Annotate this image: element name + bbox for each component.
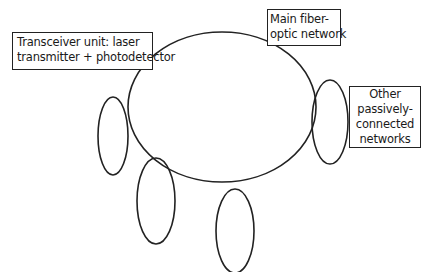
transceiver-label: Transceiver unit: laser transmitter + ph… — [12, 32, 153, 70]
other-networks-label-line-4: networks — [352, 132, 418, 147]
main-network-label: Main fiber- optic network — [267, 9, 341, 46]
satellite-ring-bottom-left — [137, 158, 175, 244]
other-networks-label-line-3: connected — [352, 117, 418, 132]
transceiver-label-line-2: transmitter + photodetector — [17, 50, 148, 65]
other-networks-label-line-1: Other — [352, 87, 418, 102]
main-network-label-line-2: optic network — [270, 27, 338, 42]
main-network-label-line-1: Main fiber- — [270, 12, 338, 27]
satellite-ring-right — [312, 80, 348, 164]
other-networks-label-line-2: passively- — [352, 102, 418, 117]
transceiver-label-line-1: Transceiver unit: laser — [17, 35, 148, 50]
other-networks-label: Other passively- connected networks — [349, 86, 421, 148]
satellite-ring-bottom-middle — [216, 189, 254, 272]
satellite-ring-left — [98, 97, 128, 175]
